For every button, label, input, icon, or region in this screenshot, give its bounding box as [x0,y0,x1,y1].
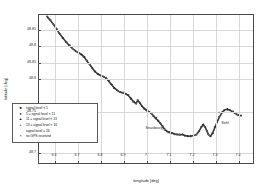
data-point [66,42,68,44]
y-axis-tick-label: 48.8 [29,76,36,80]
data-point [119,91,121,93]
data-point [142,106,144,108]
gridline-vertical [170,15,171,163]
city-annotation-label: Kehl [222,121,229,125]
x-axis-tick-label: 6.9 [121,153,126,157]
legend-item-label: signal level ≥ 16 [26,130,50,133]
x-axis-tick [170,161,171,164]
data-point [111,84,113,86]
gridline-horizontal [39,63,253,64]
dot-marker-icon: · [15,129,26,133]
city-annotation-marker-icon: + [218,110,220,114]
data-point [190,136,192,138]
data-point [152,116,154,118]
x-axis-tick [55,161,56,164]
gridline-horizontal [39,46,253,47]
data-point [91,67,93,69]
data-point [108,80,110,82]
gridline-vertical [101,15,102,163]
data-point [211,132,213,134]
y-axis-tick-label: 48.7 [29,150,36,154]
data-point [94,70,96,72]
gridline-vertical [147,15,148,163]
data-point [143,108,145,110]
x-axis-tick [239,161,240,164]
data-point [128,94,130,96]
gridline-vertical [239,15,240,163]
circle-marker-icon: ● [15,113,26,117]
legend-item-label: 5 ≤ signal level < 11 [26,113,55,116]
y-axis-tick [38,153,41,154]
data-point [103,76,105,78]
cross-marker-icon: × [15,135,26,139]
city-annotation-marker-icon: ○ [156,115,158,119]
x-axis-title: longitude [deg] [38,178,254,183]
data-point [71,48,73,50]
y-axis-tick [38,79,41,80]
data-point [97,73,99,75]
data-point [86,60,88,62]
data-point [50,19,52,21]
data-point [179,135,181,137]
square-marker-icon: ■ [15,107,26,111]
data-point [196,134,198,136]
gridline-vertical [216,15,217,163]
data-point [235,113,237,115]
x-axis-tick-label: 7.1 [166,153,171,157]
y-axis-tick [38,46,41,47]
data-point [176,134,178,136]
gridline-horizontal [39,79,253,80]
y-axis-tick-label: 48.85 [27,60,36,64]
data-point [208,134,210,136]
data-point [164,129,166,131]
data-point [75,50,77,52]
data-point [182,134,184,136]
x-axis-tick [124,161,125,164]
x-axis-tick-label: 6.6 [52,153,57,157]
x-axis-tick [147,161,148,164]
data-point [219,116,221,118]
data-point [187,135,189,137]
data-point [130,98,132,100]
data-point [227,109,229,111]
data-point [117,90,119,92]
data-point [201,126,203,128]
legend-item-label: no GPS received [26,135,51,138]
triangle-marker-icon: ▲ [15,118,26,122]
data-point [162,126,164,128]
data-point [80,54,82,56]
data-point [210,136,212,138]
legend-item-label: 13 ≤ signal level < 16 [26,124,57,127]
data-point [158,120,160,122]
data-point [198,130,200,132]
x-axis-tick-label: 7 [145,153,147,157]
data-point [240,114,242,116]
y-axis-tick-label: 48.85 [27,27,36,31]
y-axis-tick [38,30,41,31]
city-annotation-label: Strasbourg [145,126,162,130]
data-point [160,122,162,124]
data-point [171,132,173,134]
legend-item[interactable]: × no GPS received [15,134,96,140]
data-point [203,124,205,126]
x-axis-tick-label: 7.4 [235,153,240,157]
data-point [229,109,231,111]
data-point [125,93,127,95]
x-axis-tick [216,161,217,164]
plus-marker-icon: + [15,124,26,128]
x-axis-tick-label: 7.3 [212,153,217,157]
legend-item-label: 11 ≤ signal level < 13 [26,118,57,121]
x-axis-tick [78,161,79,164]
x-axis-tick-label: 6.7 [75,153,80,157]
gridline-horizontal [39,30,253,31]
data-point [204,126,206,128]
data-point [132,102,134,104]
y-axis-tick-label: 48.8 [29,43,36,47]
data-point [113,88,115,90]
data-point [83,56,85,58]
gridline-vertical [193,15,194,163]
y-axis-title: latitude [deg] [3,78,8,100]
data-point [166,131,168,133]
data-point [137,99,139,101]
data-point [52,24,54,26]
